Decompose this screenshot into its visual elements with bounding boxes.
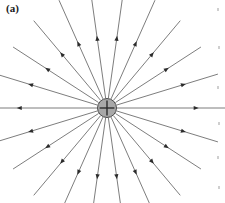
field-line-arrowhead bbox=[114, 174, 118, 179]
field-line-arrowhead bbox=[95, 36, 99, 41]
field-line bbox=[90, 0, 106, 98]
field-line bbox=[90, 118, 105, 203]
scan-speck bbox=[218, 186, 220, 189]
field-line bbox=[108, 118, 123, 203]
field-line bbox=[59, 117, 103, 203]
scan-speck bbox=[217, 86, 219, 89]
field-line bbox=[108, 0, 124, 98]
figure-panel: (a) bbox=[0, 0, 225, 203]
scan-speck bbox=[218, 122, 220, 125]
field-line-arrowhead bbox=[96, 174, 100, 179]
field-line bbox=[13, 47, 99, 103]
field-line-arrowhead bbox=[45, 144, 50, 148]
field-line bbox=[111, 0, 155, 99]
field-line-arrowhead bbox=[28, 83, 33, 87]
field-line bbox=[115, 113, 201, 169]
field-line-arrowhead bbox=[180, 83, 185, 87]
field-line bbox=[115, 47, 201, 103]
scan-speck bbox=[218, 46, 220, 49]
field-line-arrowhead bbox=[180, 129, 185, 133]
scan-artifact-specks bbox=[215, 0, 225, 203]
field-line bbox=[111, 117, 155, 203]
field-line-arrowhead bbox=[163, 68, 168, 72]
field-line bbox=[59, 0, 103, 99]
scan-speck bbox=[217, 156, 219, 159]
field-line-arrowhead bbox=[114, 36, 118, 41]
field-line-arrowhead bbox=[17, 106, 22, 110]
field-line-arrowhead bbox=[45, 68, 50, 72]
point-charge bbox=[98, 99, 117, 118]
field-line bbox=[13, 113, 99, 169]
field-line-arrowhead bbox=[194, 106, 199, 110]
field-line-arrowhead bbox=[163, 144, 168, 148]
electric-field-diagram bbox=[0, 0, 225, 203]
field-line-arrowhead bbox=[28, 129, 33, 133]
scan-speck bbox=[217, 8, 219, 11]
